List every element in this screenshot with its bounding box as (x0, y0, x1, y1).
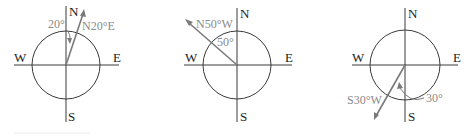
west-label: W (14, 50, 27, 65)
east-label: E (113, 50, 121, 65)
bearing-label: S30°W (347, 93, 382, 107)
west-label: W (352, 50, 365, 65)
north-label: N (240, 6, 250, 21)
angle-label: 30° (426, 91, 443, 105)
bearing-diagrams: N S W E 20° N20°E N S W E 50° N50°W N S … (0, 0, 472, 137)
compass-diagram-3: N S W E 30° S30°W (347, 6, 461, 124)
south-label: S (408, 109, 415, 124)
south-label: S (68, 109, 75, 124)
arc-arrowhead-icon (397, 82, 403, 89)
north-label: N (408, 6, 418, 21)
north-label: N (69, 4, 79, 19)
angle-arc (400, 88, 424, 100)
angle-label: 20° (48, 17, 65, 31)
bearing-label: N20°E (82, 19, 115, 33)
south-label: S (240, 109, 247, 124)
compass-diagram-2: N S W E 50° N50°W (184, 6, 293, 124)
arc-arrowhead-icon (67, 38, 72, 44)
west-label: W (185, 50, 198, 65)
east-label: E (285, 50, 293, 65)
arrowhead-icon (80, 9, 86, 17)
angle-label: 50° (217, 35, 234, 49)
compass-diagram-1: N S W E 20° N20°E (14, 4, 121, 124)
bearing-label: N50°W (196, 17, 233, 31)
east-label: E (453, 50, 461, 65)
